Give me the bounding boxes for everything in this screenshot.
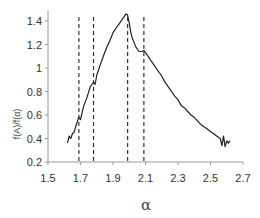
y-tick-label: 1.2: [27, 39, 42, 51]
y-axis-ticks: 0.20.40.60.811.21.4: [27, 15, 48, 168]
y-tick-label: 1: [36, 62, 42, 74]
x-axis-label: α: [141, 196, 151, 214]
plot-area: [68, 14, 231, 147]
x-tick-label: 2.5: [203, 172, 218, 184]
x-tick-label: 2.7: [235, 172, 250, 184]
y-axis-label: f(Α)/f(α): [12, 109, 22, 140]
y-tick-label: 0.2: [27, 156, 42, 168]
y-tick-label: 1.4: [27, 15, 42, 27]
series-line: [68, 14, 231, 147]
x-tick-label: 2.3: [170, 172, 185, 184]
vertical-dashed-lines: [79, 17, 144, 162]
x-axis-ticks: 1.51.71.92.12.32.52.7: [40, 162, 250, 184]
x-tick-label: 2.1: [138, 172, 153, 184]
x-tick-label: 1.5: [40, 172, 55, 184]
chart: 0.20.40.60.811.21.4 1.51.71.92.12.32.52.…: [0, 0, 260, 218]
y-tick-label: 0.8: [27, 86, 42, 98]
x-tick-label: 1.9: [105, 172, 120, 184]
y-tick-label: 0.6: [27, 109, 42, 121]
y-tick-label: 0.4: [27, 133, 42, 145]
x-tick-label: 1.7: [73, 172, 88, 184]
axes: [48, 10, 243, 162]
